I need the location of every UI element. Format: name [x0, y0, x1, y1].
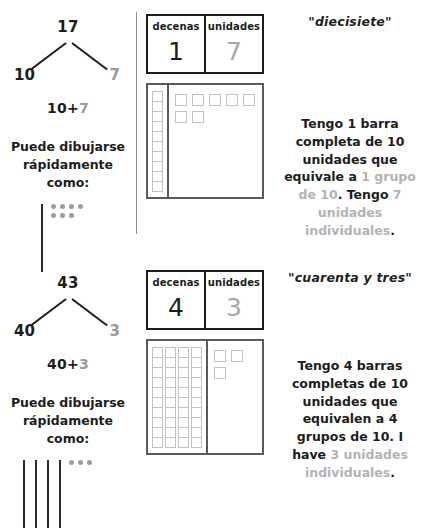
place-value-cell-ones: unidades 3 [204, 272, 262, 328]
unit-square [191, 437, 202, 448]
base-ten-blocks-2 [146, 339, 264, 455]
loose-units-1 [175, 94, 256, 123]
loose-units-2 [214, 350, 256, 379]
bond-leg-left [30, 298, 66, 326]
column-divider [136, 12, 137, 234]
quick-draw-dot [69, 213, 74, 218]
loose-unit-square [226, 94, 238, 106]
quick-draw-dot [78, 460, 83, 465]
equation-plus: + [67, 100, 79, 116]
quick-draw-dots-2 [69, 460, 113, 469]
bond-leg-right [71, 298, 107, 326]
ten-bar [152, 347, 163, 447]
loose-unit-square [175, 94, 187, 106]
unit-square [178, 437, 189, 448]
place-value-value-ones: 3 [206, 295, 262, 320]
place-value-header-ones: unidades [206, 21, 262, 32]
explanation-fragment: . Tengo [338, 187, 393, 202]
bond-part-tens: 10 [14, 66, 35, 84]
quick-draw-dot [51, 204, 56, 209]
bond-part-tens: 40 [14, 322, 35, 340]
quick-draw-sticks-2 [23, 460, 61, 528]
quick-draw-dots-1 [51, 204, 95, 222]
loose-unit-square [209, 94, 221, 106]
bond-part-ones: 3 [110, 322, 120, 340]
loose-unit-square [243, 94, 255, 106]
place-value-column-2: decenas 4 unidades 3 [146, 270, 266, 455]
loose-unit-square [231, 350, 243, 362]
place-value-value-ones: 7 [206, 39, 262, 64]
quick-draw-2 [0, 460, 136, 532]
place-value-column-1: decenas 1 unidades 7 [146, 14, 266, 199]
unit-square [152, 181, 163, 192]
number-word-label-2: "cuarenta y tres" [272, 270, 428, 285]
quick-draw-stick [23, 460, 25, 528]
quick-draw-stick [47, 460, 49, 528]
explanation-fragment: . [390, 223, 395, 238]
loose-unit-square [214, 367, 226, 379]
explanation-column-1: "diecisiete" Tengo 1 barra completa de 1… [272, 14, 428, 239]
bond-leg-right [71, 42, 107, 70]
place-value-value-tens: 4 [148, 295, 204, 320]
ten-bar [152, 91, 163, 191]
bond-part-ones: 7 [110, 66, 120, 84]
bond-whole: 43 [8, 274, 128, 292]
place-value-example-forty-three: 43 40 3 40+3 Puede dibujarse rápidamente… [0, 258, 428, 503]
place-value-cell-tens: decenas 1 [148, 16, 204, 72]
place-value-value-tens: 1 [148, 39, 204, 64]
loose-unit-square [175, 111, 187, 123]
place-value-table-2: decenas 4 unidades 3 [146, 270, 264, 330]
place-value-header-tens: decenas [148, 277, 204, 288]
place-value-table-1: decenas 1 unidades 7 [146, 14, 264, 74]
number-bond-column-1: 17 10 7 10+7 Puede dibujarse rápidamente… [0, 0, 136, 282]
explanation-fragment: . [390, 465, 395, 480]
ten-bar [165, 347, 176, 447]
base-ten-blocks-1 [146, 83, 264, 199]
place-value-example-seventeen: 17 10 7 10+7 Puede dibujarse rápidamente… [0, 0, 428, 248]
unit-square [165, 437, 176, 448]
quick-draw-dot [87, 460, 92, 465]
quick-draw-dot [60, 213, 65, 218]
place-value-cell-tens: decenas 4 [148, 272, 204, 328]
ten-bar [191, 347, 202, 447]
unit-square [152, 437, 163, 448]
quick-draw-dot [69, 204, 74, 209]
expanded-form-equation-2: 40+3 [0, 356, 136, 372]
quick-draw-dot [60, 204, 65, 209]
explanation-text-1: Tengo 1 barra completa de 10 unidades qu… [272, 115, 428, 239]
bond-leg-left [30, 42, 66, 70]
ten-bars-area-2 [148, 341, 208, 453]
explanation-column-2: "cuarenta y tres" Tengo 4 barras complet… [272, 270, 428, 481]
expanded-form-equation-1: 10+7 [0, 100, 136, 116]
loose-units-area-2 [208, 341, 262, 453]
explanation-text-2: Tengo 4 barras completas de 10 unidades … [272, 357, 428, 481]
ten-bars-area-1 [148, 85, 169, 197]
quick-draw-dot [78, 204, 83, 209]
equation-ones: 3 [79, 356, 89, 372]
quick-draw-stick [35, 460, 37, 528]
equation-tens: 10 [47, 100, 67, 116]
number-word-label-1: "diecisiete" [272, 14, 428, 29]
quick-draw-stick [59, 460, 61, 528]
loose-unit-square [214, 350, 226, 362]
equation-tens: 40 [47, 356, 67, 372]
ten-bar [178, 347, 189, 447]
equation-ones: 7 [79, 100, 89, 116]
quick-draw-dot [69, 460, 74, 465]
draw-prompt-1: Puede dibujarse rápidamente como: [0, 138, 136, 192]
number-bond-column-2: 43 40 3 40+3 Puede dibujarse rápidamente… [0, 258, 136, 532]
quick-draw-dot [51, 213, 56, 218]
number-bond-2: 43 40 3 [8, 274, 128, 342]
place-value-cell-ones: unidades 7 [204, 16, 262, 72]
loose-unit-square [192, 111, 204, 123]
equation-plus: + [67, 356, 79, 372]
draw-prompt-2: Puede dibujarse rápidamente como: [0, 394, 136, 448]
loose-unit-square [192, 94, 204, 106]
place-value-header-tens: decenas [148, 21, 204, 32]
place-value-header-ones: unidades [206, 277, 262, 288]
bond-whole: 17 [8, 18, 128, 36]
loose-units-area-1 [169, 85, 262, 197]
number-bond-1: 17 10 7 [8, 18, 128, 86]
